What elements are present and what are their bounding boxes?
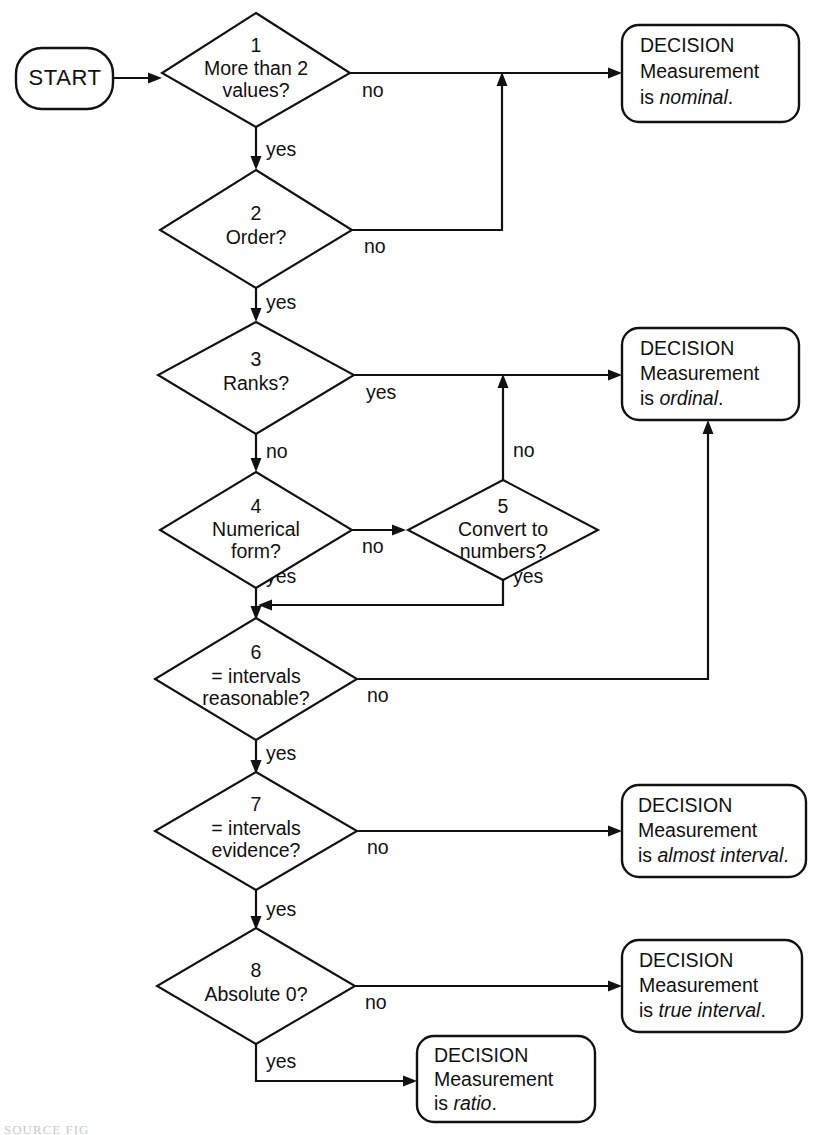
diamond-7-line1: = intervals <box>211 817 301 839</box>
outcome-almost-interval-heading: DECISION <box>638 794 732 816</box>
outcome-true-interval-line2: Measurement <box>639 974 759 996</box>
outcome-ratio-suffix: . <box>491 1092 496 1114</box>
outcome-almost-interval-line3: is almost interval. <box>638 844 789 866</box>
outcome-true-interval-heading: DECISION <box>639 949 733 971</box>
arrowhead-n8-true <box>608 981 622 992</box>
diamond-4-line1: Numerical <box>212 518 300 540</box>
flowchart-canvas: no yes no yes yes no no no yes yes no ye… <box>0 0 820 1135</box>
outcome-almost-interval-prefix: is <box>638 844 658 866</box>
outcome-nominal-emphasis: nominal <box>660 86 729 108</box>
outcome-nominal-line3: is nominal. <box>640 86 733 108</box>
diamond-1-line2: values? <box>222 79 289 101</box>
outcome-almost-interval-suffix: . <box>783 844 788 866</box>
arrowhead-start-n1 <box>148 73 162 84</box>
diamond-6-number: 6 <box>251 641 262 663</box>
node-7-equal-intervals-evidence[interactable]: 7 = intervals evidence? <box>155 772 357 890</box>
node-2-order[interactable]: 2 Order? <box>160 170 352 288</box>
outcome-ordinal-prefix: is <box>640 387 660 409</box>
arrowhead-n6-ordinal <box>703 420 714 434</box>
arrowhead-n1-n2 <box>251 156 262 170</box>
outcome-ordinal-heading: DECISION <box>640 337 734 359</box>
arrowhead-n2-n3 <box>251 308 262 322</box>
outcome-ratio-heading: DECISION <box>434 1044 528 1066</box>
edge-label-n8-yes: yes <box>266 1050 297 1072</box>
edge-label-n3-no: no <box>266 440 288 462</box>
edge-n2-no <box>352 82 502 230</box>
outcome-true-interval-suffix: . <box>760 999 765 1021</box>
outcome-ordinal[interactable]: DECISION Measurement is ordinal. <box>622 328 799 420</box>
diamond-4-line2: form? <box>231 540 281 562</box>
edge-label-n3-yes: yes <box>366 381 397 403</box>
diamond-5-line1: Convert to <box>458 518 548 540</box>
diamond-7-number: 7 <box>251 793 262 815</box>
diamond-6-line2: reasonable? <box>202 687 309 709</box>
diamond-5-number: 5 <box>498 495 509 517</box>
outcome-ordinal-suffix: . <box>718 387 723 409</box>
arrowhead-n3-n4 <box>251 458 262 472</box>
arrowhead-n3-ordinal <box>608 370 622 381</box>
diamond-1-line1: More than 2 <box>204 57 308 79</box>
arrowhead-n1-nominal <box>608 68 622 79</box>
diamond-8-number: 8 <box>251 959 262 981</box>
outcome-almost-interval[interactable]: DECISION Measurement is almost interval. <box>622 785 806 877</box>
node-3-ranks[interactable]: 3 Ranks? <box>158 322 354 434</box>
node-start[interactable]: START <box>16 48 113 109</box>
outcome-nominal-prefix: is <box>640 86 660 108</box>
outcome-almost-interval-line2: Measurement <box>638 819 758 841</box>
diamond-7-line2: evidence? <box>212 839 301 861</box>
diamond-6-line1: = intervals <box>211 665 301 687</box>
edge-label-n5-no: no <box>513 439 535 461</box>
outcome-ratio-line3: is ratio. <box>434 1092 497 1114</box>
arrowhead-n8-ratio <box>403 1076 417 1087</box>
diamond-8-line1: Absolute 0? <box>205 983 308 1005</box>
outcome-ordinal-emphasis: ordinal <box>660 387 719 409</box>
outcome-ratio-prefix: is <box>434 1092 454 1114</box>
outcome-ratio-line2: Measurement <box>434 1068 554 1090</box>
outcome-ordinal-line3: is ordinal. <box>640 387 723 409</box>
diamond-2-line1: Order? <box>226 226 287 248</box>
diamond-5-line2: numbers? <box>460 540 547 562</box>
diamond-3-line1: Ranks? <box>223 372 289 394</box>
outcome-nominal-line2: Measurement <box>640 60 760 82</box>
diamond-2-number: 2 <box>251 202 262 224</box>
outcome-ordinal-line2: Measurement <box>640 362 760 384</box>
arrowhead-n4-n5 <box>392 525 406 536</box>
edge-label-n7-yes: yes <box>266 898 297 920</box>
edge-label-n2-yes: yes <box>266 291 297 313</box>
edge-label-n4-no: no <box>362 535 384 557</box>
edge-label-n6-yes: yes <box>266 742 297 764</box>
node-1-more-than-2-values[interactable]: 1 More than 2 values? <box>162 13 350 127</box>
node-8-absolute-zero[interactable]: 8 Absolute 0? <box>157 928 355 1044</box>
edge-label-n7-no: no <box>367 836 389 858</box>
edge-label-n2-no: no <box>364 235 386 257</box>
edge-label-n1-yes: yes <box>266 138 297 160</box>
start-label: START <box>28 65 101 90</box>
edge-n5-yes <box>268 580 503 605</box>
outcome-ratio[interactable]: DECISION Measurement is ratio. <box>417 1036 595 1122</box>
outcome-nominal-heading: DECISION <box>640 34 734 56</box>
outcome-true-interval-emphasis: true interval <box>659 999 762 1021</box>
edge-label-n6-no: no <box>367 684 389 706</box>
outcome-true-interval[interactable]: DECISION Measurement is true interval. <box>622 940 802 1032</box>
diamond-3-number: 3 <box>251 348 262 370</box>
flowchart-svg: no yes no yes yes no no no yes yes no ye… <box>0 0 820 1135</box>
outcome-nominal[interactable]: DECISION Measurement is nominal. <box>622 25 799 122</box>
page-scan-artifact: SOURCE FIG <box>4 1124 174 1135</box>
node-6-equal-intervals-reasonable[interactable]: 6 = intervals reasonable? <box>155 618 357 740</box>
diamond-1-number: 1 <box>251 34 262 56</box>
edge-label-n1-no: no <box>362 79 384 101</box>
diamond-4-number: 4 <box>251 495 262 517</box>
outcome-almost-interval-emphasis: almost interval <box>658 844 784 866</box>
node-5-convert-to-numbers[interactable]: 5 Convert to numbers? <box>408 480 598 580</box>
node-4-numerical-form[interactable]: 4 Numerical form? <box>160 472 352 588</box>
outcome-true-interval-prefix: is <box>639 999 659 1021</box>
edge-label-n8-no: no <box>365 991 387 1013</box>
outcome-true-interval-line3: is true interval. <box>639 999 766 1021</box>
outcome-ratio-emphasis: ratio <box>454 1092 492 1114</box>
arrowhead-n7-almost <box>608 826 622 837</box>
outcome-nominal-suffix: . <box>728 86 733 108</box>
